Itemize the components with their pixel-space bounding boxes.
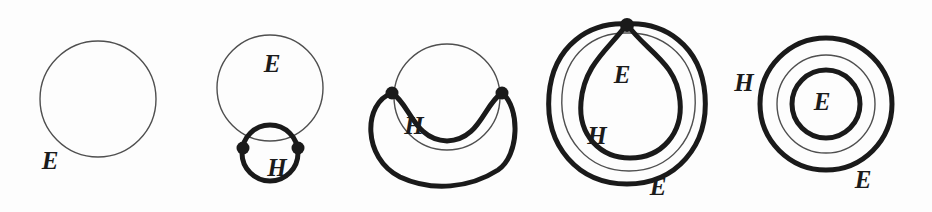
panel-4: E H E [549,18,706,200]
panel-5-label-H-0: H [733,69,755,96]
panel-2-vertex-left [237,142,250,155]
panel-4-label-E-2: E [649,173,667,200]
panel-1-label-E-0: E [41,147,59,174]
panel-4-vertex-top [620,18,634,32]
panel-1-thin-circle-E [40,41,156,157]
panel-2: E H [217,35,323,181]
panel-5: H E E [733,38,892,193]
panel-5-label-E-1: E [813,88,831,115]
panel-2-label-H-1: H [266,154,288,181]
figure-canvas: E E H H [0,0,932,212]
figure-strip: E E H H [0,0,932,212]
panel-3-vertex-left [386,87,399,100]
panel-3-vertex-right [496,87,509,100]
panel-3-label-H-0: H [403,112,425,139]
panel-1: E [40,41,156,174]
panel-3: H [371,44,515,186]
panel-4-label-H-1: H [586,122,608,149]
panel-2-vertex-right [292,142,305,155]
panel-4-label-E-0: E [613,61,631,88]
panel-2-label-E-0: E [263,50,281,77]
panel-5-label-E-2: E [854,166,872,193]
